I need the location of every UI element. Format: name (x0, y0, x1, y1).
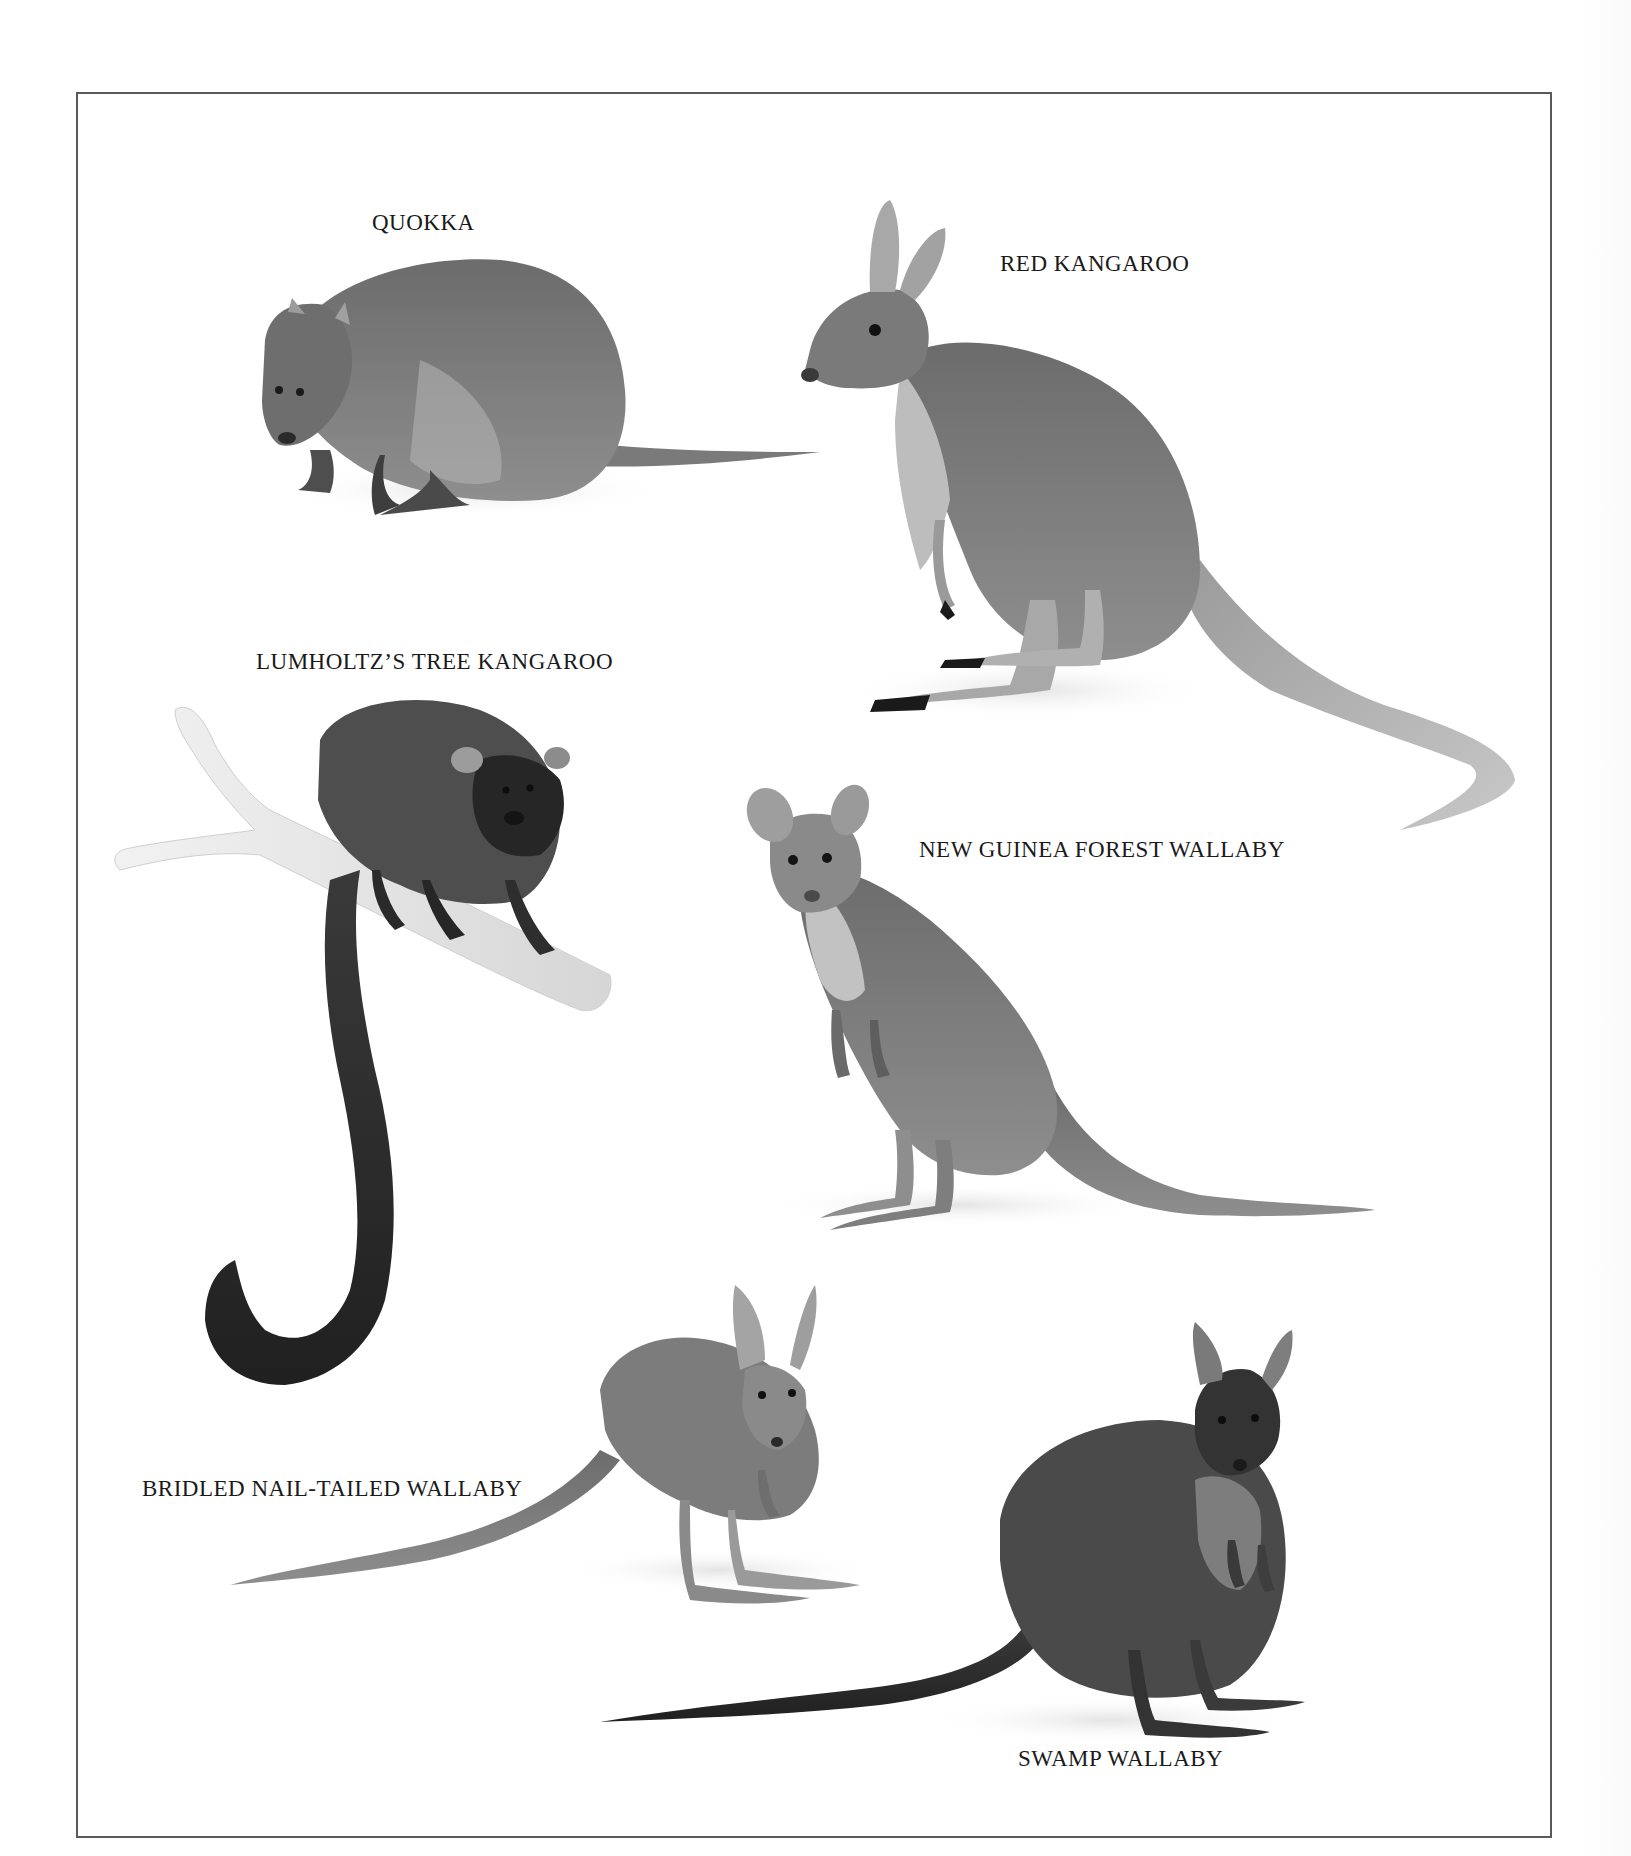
red-kangaroo-label: RED KANGAROO (1000, 252, 1189, 275)
lumholtz-tree-kangaroo-illustration (115, 700, 611, 1385)
lumholtz-tree-kangaroo-label: LUMHOLTZ’S TREE KANGAROO (256, 650, 613, 673)
quokka-label: QUOKKA (372, 211, 475, 234)
new-guinea-forest-wallaby-label: NEW GUINEA FOREST WALLABY (919, 838, 1285, 861)
swamp-wallaby-label: SWAMP WALLABY (1018, 1747, 1223, 1770)
illustration-artwork (0, 0, 1631, 1856)
quokka-illustration (262, 259, 820, 518)
red-kangaroo-illustration (801, 200, 1515, 830)
bridled-nail-tailed-wallaby-label: BRIDLED NAIL-TAILED WALLABY (142, 1477, 522, 1500)
